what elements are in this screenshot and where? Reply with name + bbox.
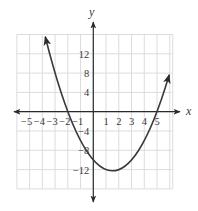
- x-tick-label: 3: [129, 116, 134, 127]
- x-tick-label: 2: [116, 116, 121, 127]
- parabola-graph: x y −5−4−3−2−112345 1284−4−8−12: [0, 0, 198, 211]
- x-tick-label: 4: [142, 116, 148, 127]
- y-tick-label: 8: [84, 68, 89, 79]
- x-tick-label: −4: [34, 116, 46, 127]
- y-tick-label: 4: [84, 87, 90, 98]
- y-tick-label: 12: [79, 49, 90, 60]
- y-tick-label: −12: [73, 165, 89, 176]
- y-axis-label: y: [88, 5, 95, 19]
- x-axis-label: x: [185, 104, 192, 118]
- x-tick-label: −2: [59, 116, 70, 127]
- x-tick-label: −3: [46, 116, 57, 127]
- x-tick-labels: −5−4−3−2−112345: [21, 116, 160, 127]
- y-tick-label: −4: [78, 126, 90, 137]
- x-tick-label: 1: [103, 116, 108, 127]
- x-tick-label: −5: [21, 116, 32, 127]
